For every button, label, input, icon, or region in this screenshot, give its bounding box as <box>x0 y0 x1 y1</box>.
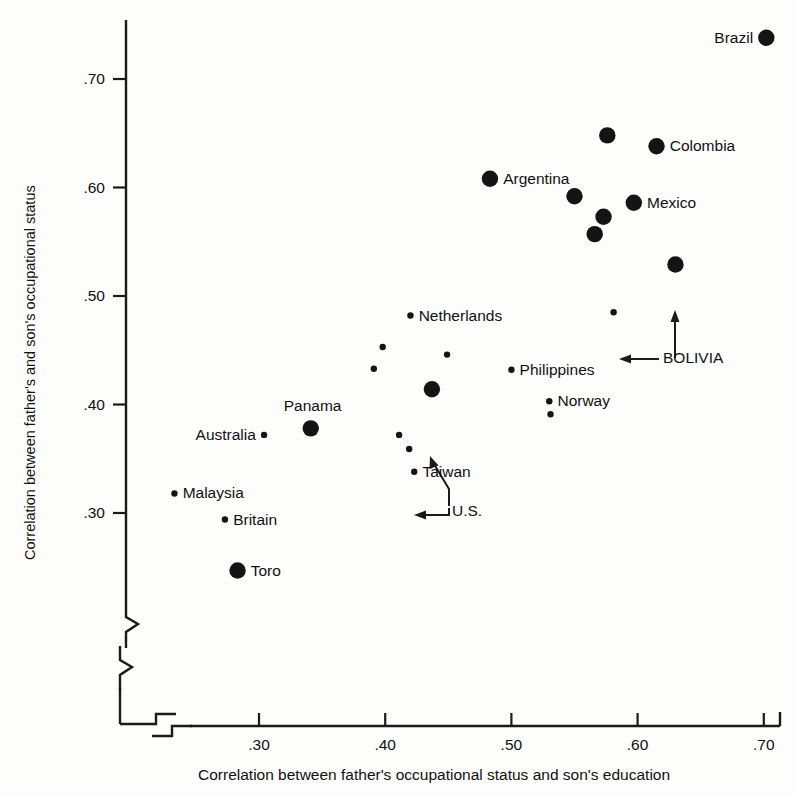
point-label-australia: Australia <box>196 427 256 443</box>
scatter-plot-figure: Correlation between father's and son's o… <box>0 0 795 795</box>
point-label-norway: Norway <box>557 393 610 409</box>
data-point-argentina[interactable] <box>482 171 498 187</box>
y-axis-break-upper <box>126 605 138 648</box>
data-markers <box>171 30 774 579</box>
point-label-philippines: Philippines <box>520 362 595 378</box>
y-tick-label: .50 <box>55 287 105 305</box>
plot-canvas <box>0 0 795 795</box>
data-point[interactable] <box>595 209 611 225</box>
x-axis-label: Correlation between father's occupationa… <box>198 766 670 784</box>
data-point[interactable] <box>599 127 615 143</box>
x-axis-break-upper <box>120 714 176 724</box>
us-arrow-head-left <box>414 511 426 520</box>
data-point-brazil[interactable] <box>758 30 774 46</box>
annotation-leaders <box>414 310 680 520</box>
x-tick-label: .70 <box>734 736 794 754</box>
y-tick-label: .30 <box>55 504 105 522</box>
data-point-mexico[interactable] <box>626 194 642 210</box>
bolivia-arrow-head-left <box>619 355 631 364</box>
data-point-australia[interactable] <box>261 432 267 438</box>
data-point-philippines[interactable] <box>508 367 514 373</box>
data-point[interactable] <box>586 226 602 242</box>
data-point-toro[interactable] <box>229 562 245 578</box>
data-point-bolivia[interactable] <box>667 256 683 272</box>
data-point-taiwan[interactable] <box>411 469 417 475</box>
point-label-netherlands: Netherlands <box>419 308 503 324</box>
x-tick-label: .40 <box>355 736 415 754</box>
data-point-norway[interactable] <box>546 398 552 404</box>
point-label-toro: Toro <box>251 563 281 579</box>
data-point-britain[interactable] <box>222 516 228 522</box>
point-label-us: U.S. <box>452 503 482 519</box>
data-point-panama[interactable] <box>303 420 319 436</box>
point-label-britain: Britain <box>233 512 277 528</box>
point-label-taiwan: Taiwan <box>422 464 470 480</box>
bolivia-arrow-head-up <box>671 310 680 322</box>
y-tick-label: .40 <box>55 396 105 414</box>
data-point[interactable] <box>610 309 616 315</box>
x-tick-label: .30 <box>229 736 289 754</box>
us-arrow-shaft-left <box>425 508 449 515</box>
point-label-colombia: Colombia <box>670 138 735 154</box>
point-label-bolivia: BOLIVIA <box>663 350 723 366</box>
point-label-mexico: Mexico <box>647 195 696 211</box>
y-axis-label: Correlation between father's and son's o… <box>22 185 38 560</box>
y-axis-break-lower <box>120 646 132 690</box>
data-point-colombia[interactable] <box>648 138 664 154</box>
data-point[interactable] <box>547 411 553 417</box>
x-axis-break-lower <box>152 726 192 736</box>
data-point[interactable] <box>379 344 385 350</box>
point-label-panama: Panama <box>284 398 342 414</box>
data-point[interactable] <box>396 432 402 438</box>
data-point[interactable] <box>371 365 377 371</box>
y-tick-label: .60 <box>55 179 105 197</box>
data-point-malaysia[interactable] <box>171 490 177 496</box>
point-label-brazil: Brazil <box>714 30 753 46</box>
point-label-argentina: Argentina <box>503 171 569 187</box>
point-label-malaysia: Malaysia <box>183 485 244 501</box>
y-tick-label: .70 <box>55 70 105 88</box>
tick-marks <box>113 79 764 726</box>
axes <box>120 20 780 736</box>
data-point-netherlands[interactable] <box>407 312 413 318</box>
x-tick-label: .50 <box>481 736 541 754</box>
x-tick-label: .60 <box>608 736 668 754</box>
data-point-us[interactable] <box>424 381 440 397</box>
data-point[interactable] <box>566 188 582 204</box>
data-point[interactable] <box>444 351 450 357</box>
data-point[interactable] <box>406 446 412 452</box>
